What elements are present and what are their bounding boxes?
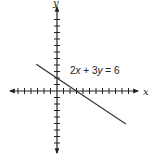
y-axis-label: y (52, 0, 59, 8)
equation-label: 2x + 3y = 6 (70, 65, 120, 76)
x-axis-label: x (143, 86, 149, 97)
coordinate-graph: x y 2x + 3y = 6 (0, 0, 157, 165)
